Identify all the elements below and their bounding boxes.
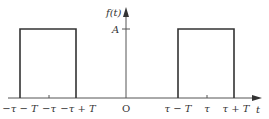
y-axis-label: f(t) [105,7,122,18]
tick-label-2: −τ + T [60,103,97,114]
tick-label-0: −τ − T [2,103,39,114]
tick-label-3: τ − T [165,103,193,114]
tick-label-1: −τ [42,103,56,114]
origin-label: O [122,103,130,114]
tick-label-5: τ + T [223,103,251,114]
right-pulse [178,29,234,98]
left-pulse [20,29,76,98]
y-axis-arrow-icon [123,7,129,17]
x-axis-label: t [256,104,261,115]
tick-label-4: τ [204,103,210,114]
amplitude-label: A [111,24,119,35]
x-axis-arrow-icon [252,95,262,101]
pulse-diagram: f(t) A t O −τ − T −τ −τ + T τ − T τ τ + … [0,0,269,119]
